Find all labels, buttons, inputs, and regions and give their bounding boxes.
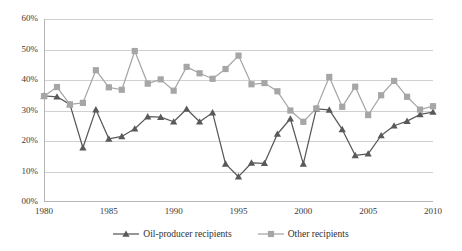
legend-item-label: Other recipients: [288, 229, 349, 239]
data-point-marker: [404, 94, 410, 100]
x-axis-tick-label: 1980: [22, 206, 66, 216]
data-point-marker: [430, 103, 436, 109]
data-point-marker: [378, 92, 384, 98]
data-point-marker: [235, 53, 241, 59]
data-point-marker: [93, 67, 99, 73]
data-point-marker: [352, 84, 358, 90]
y-axis-tick-label: 50%: [0, 45, 38, 54]
data-point-marker: [391, 78, 397, 84]
data-point-marker: [300, 119, 306, 125]
series-2: [41, 48, 436, 125]
data-point-marker: [222, 66, 228, 72]
data-point-marker: [119, 87, 125, 93]
data-point-marker: [106, 84, 112, 90]
x-axis-tick-label: 2005: [346, 206, 390, 216]
y-axis-tick-label: 20%: [0, 136, 38, 145]
series-1: [40, 92, 436, 179]
data-point-marker: [274, 88, 280, 94]
x-axis-tick-label: 2010: [411, 206, 455, 216]
y-axis-tick-label: 30%: [0, 106, 38, 115]
series-layer: [44, 19, 433, 202]
data-point-marker: [417, 106, 423, 112]
data-point-marker: [248, 81, 254, 87]
data-point-marker: [118, 133, 125, 139]
series-line: [44, 96, 433, 177]
legend-square-icon: [258, 229, 284, 239]
x-axis-tick-label: 1985: [87, 206, 131, 216]
line-chart: 00%10%20%30%40%50%60% 198019851990199520…: [0, 0, 462, 251]
y-axis-tick-label: 60%: [0, 14, 38, 23]
x-axis-tick-label: 1995: [217, 206, 261, 216]
legend-item-label: Oil-producer recipients: [143, 229, 231, 239]
data-point-marker: [313, 105, 319, 111]
data-point-marker: [197, 70, 203, 76]
data-point-marker: [92, 106, 99, 112]
data-point-marker: [183, 105, 190, 111]
data-point-marker: [209, 76, 215, 82]
x-axis-tick-label: 1990: [152, 206, 196, 216]
data-point-marker: [41, 93, 47, 99]
data-point-marker: [339, 104, 345, 110]
legend-item-1[interactable]: Oil-producer recipients: [113, 229, 231, 239]
data-point-marker: [222, 160, 229, 166]
y-axis-tick-label: 40%: [0, 75, 38, 84]
data-point-marker: [365, 112, 371, 118]
data-point-marker: [300, 160, 307, 166]
data-point-marker: [132, 48, 138, 54]
data-point-marker: [209, 109, 216, 115]
data-point-marker: [79, 144, 86, 150]
data-point-marker: [145, 81, 151, 87]
data-point-marker: [339, 126, 346, 132]
legend-item-2[interactable]: Other recipients: [258, 229, 349, 239]
data-point-marker: [171, 88, 177, 94]
series-line: [44, 51, 433, 122]
x-axis-tick-label: 2000: [281, 206, 325, 216]
data-point-marker: [287, 107, 293, 113]
plot-area: [44, 19, 433, 202]
chart-legend: Oil-producer recipientsOther recipients: [0, 229, 462, 239]
data-point-marker: [67, 101, 73, 107]
data-point-marker: [287, 115, 294, 121]
y-axis-tick-label: 00%: [0, 197, 38, 206]
data-point-marker: [403, 118, 410, 124]
data-point-marker: [184, 64, 190, 70]
data-point-marker: [261, 80, 267, 86]
y-axis-tick-label: 10%: [0, 167, 38, 176]
data-point-marker: [158, 76, 164, 82]
data-point-marker: [80, 100, 86, 106]
data-point-marker: [429, 108, 436, 114]
data-point-marker: [54, 84, 60, 90]
data-point-marker: [326, 74, 332, 80]
legend-triangle-icon: [113, 229, 139, 239]
